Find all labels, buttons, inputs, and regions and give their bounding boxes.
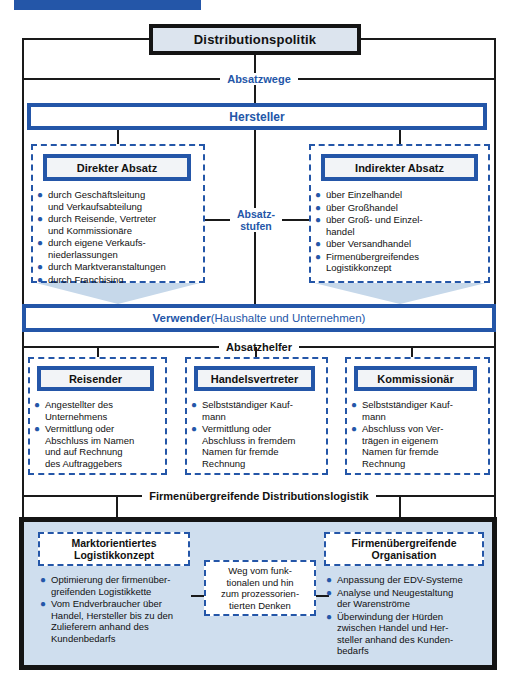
list-item: ●über Einzelhandel xyxy=(315,189,485,201)
bullet-icon: ● xyxy=(326,611,337,657)
bullet-icon: ● xyxy=(37,189,48,212)
root-title: Distributionspolitik xyxy=(194,32,316,47)
bottom-section: Marktorientiertes Logistikkonzept Firmen… xyxy=(19,517,497,670)
handelsvertreter-list: ●Selbstständiger Kauf- mann ●Vermittlung… xyxy=(191,399,321,470)
bullet-icon: ● xyxy=(191,399,202,422)
clipped-header-banner xyxy=(14,0,201,10)
list-item: ●Optimierung der firmenüber- greifenden … xyxy=(40,574,205,597)
verwender-bar: Verwender (Haushalte und Unternehmen) xyxy=(22,304,496,332)
list-item: ●durch Marktveranstaltungen xyxy=(37,261,203,273)
indirekter-absatz-title-box: Indirekter Absatz xyxy=(321,154,478,181)
list-item: ●Abschluss von Ver- trägen in eigenem Na… xyxy=(351,423,483,469)
kommissionaer-list: ●Selbstständiger Kauf- mann ●Abschluss v… xyxy=(351,399,483,470)
list-item: ●Analyse und Neugestaltung der Warenströ… xyxy=(326,587,488,610)
firmenuebergreifende-title-box: Firmenübergreifende Organisation xyxy=(324,532,484,566)
frame-left-line xyxy=(22,38,24,519)
bullet-icon: ● xyxy=(351,399,362,422)
bullet-icon: ● xyxy=(315,251,326,274)
bullet-icon: ● xyxy=(37,261,48,273)
connector-bottom-right xyxy=(399,496,401,519)
marktorientiertes-title-box: Marktorientiertes Logistikkonzept xyxy=(38,532,190,566)
center-note-box: Weg vom funk- tionalen und hin zum proze… xyxy=(204,560,316,616)
bullet-icon: ● xyxy=(34,423,45,469)
bottom-right-list: ●Anpassung der EDV-Systeme ●Analyse und … xyxy=(326,574,488,658)
indirekter-absatz-list: ●über Einzelhandel ●über Großhandel ●übe… xyxy=(315,189,485,275)
bullet-icon: ● xyxy=(315,238,326,250)
bullet-icon: ● xyxy=(40,598,51,644)
hersteller-bar: Hersteller xyxy=(27,103,487,130)
list-item: ●Überwindung der Hürden zwischen Handel … xyxy=(326,611,488,657)
absatzhelfer-line xyxy=(22,346,496,348)
list-item: ●durch eigene Verkaufs- niederlassungen xyxy=(37,237,203,260)
bullet-icon: ● xyxy=(191,423,202,469)
down-arrow-icon xyxy=(314,283,486,304)
list-item: ●über Versandhandel xyxy=(315,238,485,250)
handelsvertreter-title-box: Handelsvertreter xyxy=(194,366,315,391)
list-item: ●Anpassung der EDV-Systeme xyxy=(326,574,488,586)
list-item: ●Firmenübergreifendes Logistikkonzept xyxy=(315,251,485,274)
distributionslogistik-line xyxy=(22,495,496,497)
bullet-icon: ● xyxy=(37,237,48,260)
direkter-absatz-title-box: Direkter Absatz xyxy=(43,154,191,181)
list-item: ●Angestellter des Unternehmens xyxy=(34,399,160,422)
bullet-icon: ● xyxy=(326,587,337,610)
list-item: ●über Groß- und Einzel- handel xyxy=(315,214,485,237)
bullet-icon: ● xyxy=(326,574,337,586)
connector-hersteller-verwender xyxy=(254,130,256,305)
list-item: ●durch Geschäftsleitung und Verkaufsabte… xyxy=(37,189,203,212)
bullet-icon: ● xyxy=(37,213,48,236)
distribution-policy-diagram: Distributionspolitik Absatzwege Herstell… xyxy=(0,0,514,677)
bullet-icon: ● xyxy=(315,214,326,237)
connector-hersteller-indirekt xyxy=(399,130,401,145)
bullet-icon: ● xyxy=(315,202,326,214)
list-item: ●Vermittlung oder Abschluss im Namen und… xyxy=(34,423,160,469)
connector-hersteller-direkt xyxy=(117,130,119,145)
absatzstufen-line xyxy=(205,219,310,221)
connector-bottom-left xyxy=(116,496,118,519)
bullet-icon: ● xyxy=(315,189,326,201)
kommissionaer-title-box: Kommissionär xyxy=(354,366,477,391)
list-item: ●Selbstständiger Kauf- mann xyxy=(351,399,483,422)
reisender-list: ●Angestellter des Unternehmens ●Vermittl… xyxy=(34,399,160,470)
list-item: ●Vom Endverbraucher über Handel, Herstel… xyxy=(40,598,205,644)
bullet-icon: ● xyxy=(40,574,51,597)
bullet-icon: ● xyxy=(351,423,362,469)
list-item: ●durch Reisende, Vertreter und Kommissio… xyxy=(37,213,203,236)
bottom-left-list: ●Optimierung der firmenüber- greifenden … xyxy=(40,574,205,645)
down-arrow-icon xyxy=(36,283,200,304)
root-box-distributionspolitik: Distributionspolitik xyxy=(149,24,361,55)
reisender-title-box: Reisender xyxy=(37,366,154,391)
list-item: ●über Großhandel xyxy=(315,202,485,214)
list-item: ●Selbstständiger Kauf- mann xyxy=(191,399,321,422)
frame-right-line xyxy=(494,38,496,519)
direkter-absatz-list: ●durch Geschäftsleitung und Verkaufsabte… xyxy=(37,189,203,286)
bullet-icon: ● xyxy=(34,399,45,422)
absatzwege-line xyxy=(22,78,496,80)
list-item: ●Vermittlung oder Abschluss in fremdem N… xyxy=(191,423,321,469)
